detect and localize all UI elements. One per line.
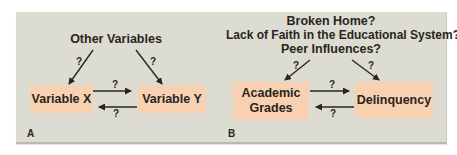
node-academic-grades: Academic Grades	[233, 82, 309, 120]
panel-a-label: A	[27, 128, 34, 139]
node-variable-y: Variable Y	[138, 85, 206, 113]
edge-label-third-to-delinquency: ?	[368, 60, 374, 71]
edge-label-grades-to-delinquency: ?	[329, 79, 335, 90]
node-variable-x-label: Variable X	[32, 92, 92, 107]
node-academic-grades-line1: Academic	[241, 86, 300, 101]
edge-label-other-to-y: ?	[150, 56, 156, 67]
node-delinquency-label: Delinquency	[357, 93, 431, 108]
node-other-variables: Other Variables	[68, 32, 164, 46]
panel-b-label: B	[228, 128, 235, 139]
third-variable-lack-of-faith: Lack of Faith in the Educational System?	[226, 28, 436, 42]
node-delinquency: Delinquency	[355, 82, 433, 118]
edge-label-x-to-y: ?	[112, 79, 118, 90]
node-academic-grades-line2: Grades	[249, 101, 292, 116]
edge-label-delinquency-to-grades: ?	[330, 108, 336, 119]
node-variable-y-label: Variable Y	[142, 92, 202, 107]
third-variable-peer-influences: Peer Influences?	[266, 42, 396, 56]
edge-label-other-to-x: ?	[76, 56, 82, 67]
node-variable-x: Variable X	[30, 85, 93, 113]
edge-label-y-to-x: ?	[113, 108, 119, 119]
third-variable-broken-home: Broken Home?	[256, 14, 406, 28]
edge-label-third-to-grades: ?	[293, 60, 299, 71]
